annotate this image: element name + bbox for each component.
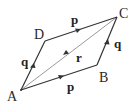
edge-ab [21, 65, 97, 90]
parallelogram-diagram: A B C D p p q q r [0, 0, 139, 106]
vertex-label-d: D [34, 27, 44, 42]
vector-label-r: r [76, 50, 82, 65]
vertex-label-a: A [7, 89, 18, 104]
vector-label-p-bottom: p [67, 79, 74, 94]
vertex-label-c: C [119, 6, 128, 21]
vector-label-p-top: p [71, 12, 78, 27]
vertex-label-b: B [99, 70, 108, 85]
vector-label-q-right: q [114, 36, 122, 51]
vertex-a-dot [20, 89, 22, 91]
vector-label-q-left: q [21, 54, 29, 69]
arrowhead-q-left [30, 63, 36, 68]
arrowhead-q-right [104, 39, 110, 45]
